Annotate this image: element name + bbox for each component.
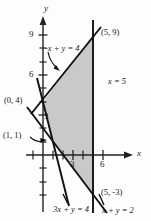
graph-canvas xyxy=(0,0,151,221)
equation-label-neg-x-plus-y: -x + y = 4 xyxy=(45,44,80,53)
point-label-5-9: (5, 9) xyxy=(101,28,119,37)
x-tick-label-3: 3 xyxy=(70,160,75,169)
equation-label-x-plus-y: x + y = 2 xyxy=(102,206,134,215)
point-label-1-1: (1, 1) xyxy=(3,131,21,140)
linear-programming-graph: y x 9 6 3 3 6 -x + y = 4 x = 5 3x + y = … xyxy=(0,0,151,221)
equation-label-3x-plus-y: 3x + y = 4 xyxy=(53,205,89,214)
equation-label-x-eq-5: x = 5 xyxy=(108,77,126,86)
y-axis-label: y xyxy=(44,4,48,13)
y-tick-label-3: 3 xyxy=(44,112,49,121)
y-tick-label-9: 9 xyxy=(29,30,34,39)
point-label-5-neg3: (5, -3) xyxy=(101,188,122,197)
point-label-0-4: (0, 4) xyxy=(4,96,22,105)
x-tick-label-6: 6 xyxy=(100,160,105,169)
callout-arrow-neg-x-plus-y xyxy=(48,52,60,71)
y-tick-label-6: 6 xyxy=(29,70,34,79)
x-axis-label: x xyxy=(137,149,141,158)
